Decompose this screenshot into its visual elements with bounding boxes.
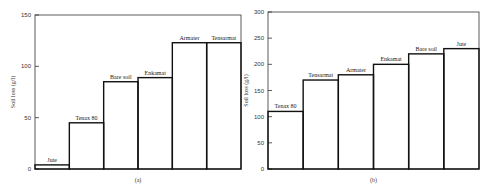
bar	[444, 49, 479, 169]
bar-label: Armater	[346, 67, 366, 73]
bar-label: Bare soil	[416, 46, 438, 52]
y-axis-title: Soil loss (g/l)	[10, 76, 17, 108]
y-tick-label: 50	[257, 140, 264, 146]
bar-label: Enkamat	[145, 70, 167, 76]
bar	[35, 165, 69, 169]
y-tick-label: 250	[254, 35, 265, 41]
y-tick-label: 150	[254, 88, 265, 94]
y-tick-label: 300	[254, 9, 265, 15]
chart-panel-a: 050100150Soil loss (g/l)JuteTenax 80Bare…	[10, 12, 241, 184]
bar	[409, 54, 444, 169]
bar	[138, 78, 172, 169]
y-tick-label: 100	[254, 114, 265, 120]
panel-label: (b)	[370, 177, 377, 184]
bar	[374, 64, 409, 169]
y-tick-label: 50	[24, 115, 31, 121]
bar	[338, 75, 373, 169]
y-tick-label: 150	[21, 12, 32, 18]
bar-label: Jute	[47, 157, 57, 163]
soil-loss-charts: 050100150Soil loss (g/l)JuteTenax 80Bare…	[0, 0, 493, 193]
y-tick-label: 0	[261, 166, 265, 172]
y-tick-label: 0	[28, 166, 32, 172]
y-axis-title: Soil loss (g/l)	[243, 74, 250, 106]
y-tick-label: 100	[21, 63, 32, 69]
bar	[172, 43, 206, 169]
bar	[303, 80, 338, 169]
bar-label: Tenax 80	[75, 115, 97, 121]
bar-label: Tensarmat	[308, 72, 333, 78]
bar-label: Armater	[180, 35, 200, 41]
bar-label: Tensarmat	[211, 35, 236, 41]
bar	[268, 111, 303, 169]
bar	[104, 82, 138, 169]
bar-label: Enkamat	[380, 56, 402, 62]
chart-panel-b: 050100150200250300Soil loss (g/l)Tenax 8…	[243, 9, 479, 184]
bar	[207, 43, 241, 169]
y-tick-label: 200	[254, 61, 265, 67]
bar-label: Tenax 80	[275, 103, 297, 109]
panel-label: (a)	[135, 177, 142, 184]
bar-label: Jute	[457, 41, 467, 47]
bar	[69, 123, 103, 169]
bar-label: Bare soil	[110, 74, 132, 80]
